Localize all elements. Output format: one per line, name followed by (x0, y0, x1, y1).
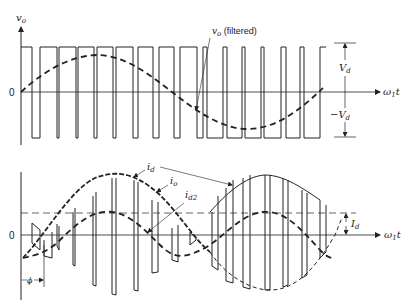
bottom-id2-leader (148, 203, 184, 232)
bottom-plot: 0 ω1t (9, 161, 402, 300)
bottom-Id-label: Id (350, 218, 360, 231)
top-x-axis-label: ω1t (383, 86, 401, 99)
top-y-axis-label: vo (16, 12, 26, 25)
top-plot: vo 0 ω1t vo (filtered) Vd −Vd (9, 12, 401, 145)
bottom-id-label: id (147, 161, 155, 174)
bottom-phase-label: ϕ (27, 276, 33, 285)
bottom-io-label: io (170, 175, 177, 188)
top-filtered-label: vo (filtered) (212, 26, 257, 38)
bottom-id2-label: id2 (185, 189, 198, 202)
bottom-id-leader-left (134, 170, 145, 177)
bottom-io-leader (157, 185, 168, 192)
pwm-waveform-diagram: vo 0 ω1t vo (filtered) Vd −Vd (0, 0, 414, 308)
top-pos-vd-label: Vd (339, 62, 351, 75)
top-origin-label: 0 (9, 87, 15, 98)
bottom-origin-label: 0 (9, 230, 15, 241)
bottom-x-axis-label: ω1t (384, 229, 402, 242)
top-neg-vd-label: −Vd (330, 109, 351, 122)
